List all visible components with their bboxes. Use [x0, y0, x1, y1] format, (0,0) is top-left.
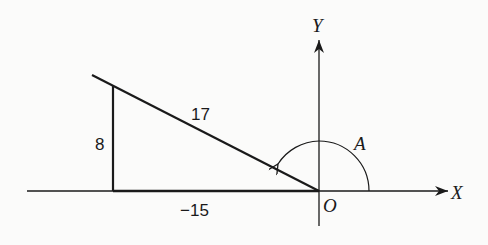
diagram-canvas: Y X O A 17 8 −15	[0, 0, 488, 245]
hypotenuse-label: 17	[191, 105, 210, 124]
angle-label: A	[352, 133, 366, 154]
x-axis-label: X	[450, 182, 464, 203]
origin-label: O	[323, 195, 337, 216]
hypotenuse-terminal-side	[92, 75, 319, 191]
y-axis-label: Y	[312, 15, 325, 36]
vertical-leg-label: 8	[95, 135, 104, 154]
horizontal-leg-label: −15	[180, 201, 209, 220]
